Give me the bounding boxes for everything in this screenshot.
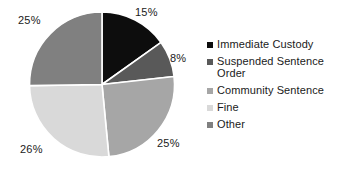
square-swatch-icon [207, 42, 213, 48]
legend-item-label: Immediate Custody [217, 38, 313, 50]
square-swatch-icon [207, 105, 213, 111]
legend-item[interactable]: Other [207, 118, 346, 130]
legend-item-label: Community Sentence [217, 84, 324, 96]
legend-item[interactable]: Immediate Custody [207, 38, 346, 50]
slice-label-immediate-custody: 15% [135, 6, 158, 18]
legend-item[interactable]: Community Sentence [207, 84, 346, 96]
chart-plot-area: 15% 8% 25% 26% 25% [0, 0, 200, 171]
pie-slices-group [30, 12, 175, 157]
square-swatch-icon [207, 122, 213, 128]
chart-legend: Immediate CustodySuspended Sentence Orde… [207, 38, 346, 135]
square-swatch-icon [207, 59, 213, 65]
pie-chart-figure: 15% 8% 25% 26% 25% Immediate CustodySusp… [0, 0, 346, 171]
legend-item-label: Other [217, 118, 245, 130]
slice-label-community-sentence: 25% [157, 137, 180, 149]
legend-item-label: Fine [217, 101, 239, 113]
legend-item[interactable]: Fine [207, 101, 346, 113]
legend-item-label: Suspended Sentence Order [217, 55, 346, 79]
slice-label-suspended-sentence-order: 8% [170, 52, 186, 64]
slice-label-fine: 26% [20, 143, 43, 155]
slice-label-other: 25% [18, 14, 41, 26]
legend-item[interactable]: Suspended Sentence Order [207, 55, 346, 79]
square-swatch-icon [207, 88, 213, 94]
